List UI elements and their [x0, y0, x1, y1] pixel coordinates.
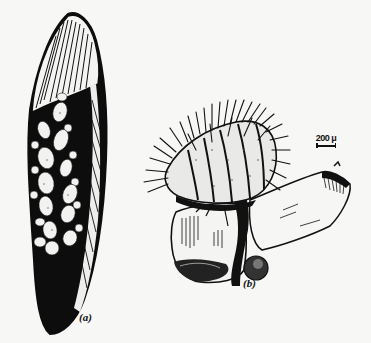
panel-b-larva-illustration [144, 100, 350, 286]
scale-bar: 200 μ [313, 133, 339, 147]
panel-label-a: (a) [79, 311, 92, 323]
scale-bar-text: 200 μ [313, 133, 339, 143]
scale-bar-line [316, 145, 336, 147]
panel-a-leaf-illustration [28, 13, 106, 334]
scientific-figure: (a) (b) 200 μ [0, 0, 371, 343]
panel-label-b: (b) [243, 277, 256, 289]
